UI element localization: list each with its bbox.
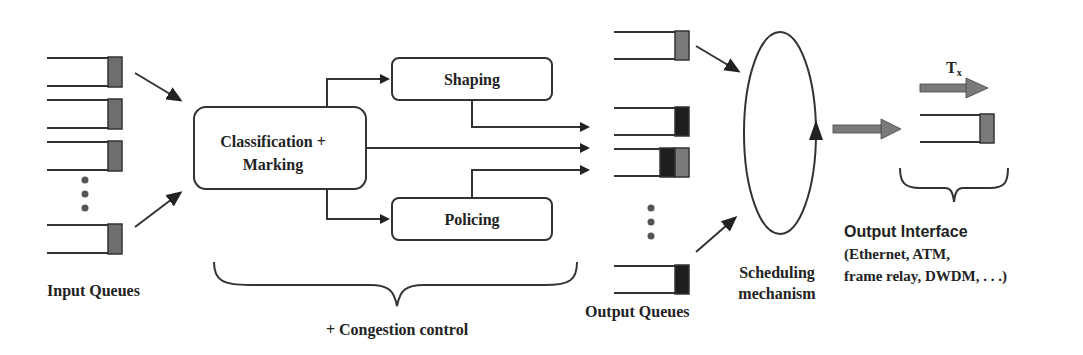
policing-label: Policing <box>444 211 499 229</box>
output-interface-line2: frame relay, DWDM, . . .) <box>844 268 1007 285</box>
ellipsis-dots-icon <box>82 177 89 212</box>
tx-label: Tx <box>946 59 962 78</box>
marking-label: Marking <box>243 156 303 174</box>
mechanism-label: mechanism <box>738 285 816 302</box>
qos-diagram: Input Queues Classification + Marking Sh… <box>0 0 1083 355</box>
arrow-input-top <box>135 73 180 100</box>
output-interface-brace <box>900 168 1008 202</box>
arrow-input-bottom <box>135 193 180 227</box>
arrow-to-policing <box>327 190 388 219</box>
ellipsis-dots-icon <box>648 205 655 240</box>
shaping-label: Shaping <box>444 71 500 89</box>
input-queue-4 <box>47 224 122 254</box>
arrow-policing-to-output <box>472 170 588 198</box>
arrow-to-shaping <box>327 79 388 106</box>
input-queues-label: Input Queues <box>47 282 140 300</box>
scheduler-rotation-arrow-icon <box>809 120 823 140</box>
congestion-control-label: + Congestion control <box>326 321 469 339</box>
arrow-scheduler-to-interface <box>833 119 901 139</box>
arrow-shaping-to-output <box>472 100 588 127</box>
input-queues: Input Queues <box>47 57 140 300</box>
classification-label: Classification + <box>220 133 326 150</box>
congestion-brace <box>214 262 577 306</box>
arrow-output-bottom-to-scheduler <box>696 218 735 252</box>
scheduler-ellipse <box>744 32 816 234</box>
output-queues: Output Queues <box>585 31 689 321</box>
output-queues-label: Output Queues <box>585 303 689 321</box>
output-queue-2 <box>614 107 689 136</box>
output-queue-3 <box>614 148 689 177</box>
input-queue-3 <box>47 141 122 171</box>
output-queue-1 <box>614 31 689 60</box>
tx-arrow <box>920 78 988 98</box>
arrow-output-top-to-scheduler <box>696 46 738 71</box>
output-interface-line1: (Ethernet, ATM, <box>844 246 950 263</box>
output-interface-queue <box>920 114 994 143</box>
output-queue-4 <box>614 265 689 294</box>
input-queue-2 <box>47 99 122 129</box>
scheduling-label: Scheduling <box>739 264 815 282</box>
input-queue-1 <box>47 57 122 87</box>
output-interface-title: Output Interface <box>844 223 968 240</box>
